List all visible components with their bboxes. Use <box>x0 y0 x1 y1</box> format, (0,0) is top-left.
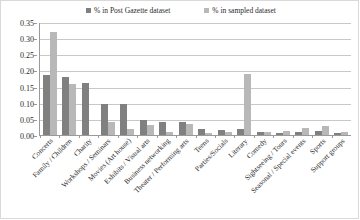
legend-label-post-gazette: % in Post Gazette dataset <box>94 6 170 15</box>
bar <box>225 132 232 135</box>
bar <box>43 75 50 135</box>
bar <box>244 74 251 135</box>
bar <box>147 125 154 135</box>
bar-group <box>137 23 156 135</box>
bar-group <box>196 23 215 135</box>
y-axis-tick <box>34 88 37 89</box>
y-axis-tick <box>34 23 37 24</box>
x-axis: ConcertsFamily / ChildrenCharityWorkshop… <box>39 137 351 220</box>
bar-groups <box>40 23 351 135</box>
bar <box>120 104 127 135</box>
bar <box>237 129 244 135</box>
legend-swatch-post-gazette <box>86 8 91 13</box>
bar-group <box>312 23 331 135</box>
bar-group <box>234 23 253 135</box>
plot-area <box>39 23 351 136</box>
x-axis-tick-label: Literary <box>227 137 249 159</box>
bar-group <box>59 23 78 135</box>
bar <box>283 131 290 135</box>
bar-group <box>79 23 98 135</box>
bar <box>295 132 302 135</box>
bar-group <box>332 23 351 135</box>
bar <box>50 32 57 135</box>
bar <box>341 132 348 135</box>
bar <box>218 130 225 135</box>
y-axis-tick-label: 0.00 <box>20 132 34 141</box>
bar-group <box>98 23 117 135</box>
y-axis-tick <box>34 104 37 105</box>
chart-legend: % in Post Gazette dataset % in sampled d… <box>1 3 360 17</box>
y-axis-tick-label: 0.25 <box>20 51 34 60</box>
legend-item-sampled: % in sampled dataset <box>204 6 276 15</box>
bar <box>62 77 69 135</box>
bar <box>69 84 76 135</box>
bar-group <box>176 23 195 135</box>
bar <box>108 122 115 135</box>
bar <box>127 129 134 135</box>
y-axis-tick <box>34 136 37 137</box>
y-axis-tick <box>34 39 37 40</box>
bar-group <box>293 23 312 135</box>
bar <box>159 122 166 135</box>
chart-container: % in Post Gazette dataset % in sampled d… <box>0 0 359 219</box>
bar <box>205 133 212 135</box>
bar <box>322 126 329 135</box>
bar-group <box>273 23 292 135</box>
legend-label-sampled: % in sampled dataset <box>212 6 276 15</box>
y-axis-tick <box>34 71 37 72</box>
y-axis-tick-label: 0.05 <box>20 115 34 124</box>
bar <box>101 104 108 135</box>
bar-group <box>157 23 176 135</box>
y-axis-tick-label: 0.20 <box>20 67 34 76</box>
bar <box>264 132 271 135</box>
bar <box>198 129 205 135</box>
y-axis-tick-label: 0.10 <box>20 99 34 108</box>
y-axis-tick-label: 0.35 <box>20 19 34 28</box>
y-axis: 0.350.300.250.200.150.100.050.00 <box>1 23 37 136</box>
legend-item-post-gazette: % in Post Gazette dataset <box>86 6 170 15</box>
y-axis-tick <box>34 120 37 121</box>
legend-swatch-sampled <box>204 8 209 13</box>
bar-group <box>215 23 234 135</box>
bar <box>82 83 89 135</box>
bar <box>186 124 193 135</box>
bar <box>315 131 322 135</box>
bar <box>276 133 283 135</box>
y-axis-tick <box>34 55 37 56</box>
bar-group <box>40 23 59 135</box>
bar <box>257 132 264 135</box>
bar-group <box>118 23 137 135</box>
y-axis-tick-label: 0.30 <box>20 35 34 44</box>
bar <box>302 128 309 135</box>
bar-group <box>254 23 273 135</box>
bar <box>179 122 186 135</box>
bar <box>166 132 173 135</box>
bar <box>334 133 341 135</box>
y-axis-tick-label: 0.15 <box>20 83 34 92</box>
bar <box>140 120 147 135</box>
